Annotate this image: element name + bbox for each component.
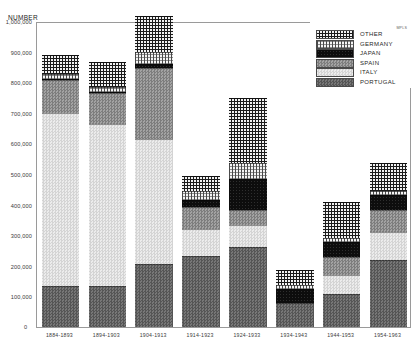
legend-label-germany: GERMANY — [360, 40, 393, 49]
bar-segment-1894-1903-italy — [89, 124, 127, 286]
legend-label-other: OTHER — [360, 30, 383, 39]
x-axis-label-1954-1963: 1954-1963 — [364, 332, 411, 338]
bar-segment-1954-1963-italy — [370, 232, 408, 260]
bar-segment-1944-1953-portugal — [323, 294, 361, 327]
bar-segment-1934-1943-germany — [276, 285, 314, 289]
bar-segment-1954-1963-japan — [370, 195, 408, 209]
bar-segment-1894-1903-portugal — [89, 286, 127, 327]
bar-segment-1894-1903-other — [89, 62, 127, 86]
legend-swatch-japan — [316, 49, 354, 58]
bar-segment-1914-1923-germany — [182, 191, 220, 199]
bar-segment-1884-1893-portugal — [42, 286, 80, 327]
legend-item-italy: ITALY — [316, 68, 410, 77]
legend-label-italy: ITALY — [360, 68, 378, 77]
y-axis-zero-label: 0 — [24, 324, 27, 330]
bar-1924-1933 — [229, 21, 267, 327]
bar-segment-1894-1903-spain — [89, 93, 127, 124]
bar-segment-1944-1953-spain — [323, 257, 361, 275]
x-axis-label-1944-1953: 1944-1953 — [317, 332, 364, 338]
bar-segment-1884-1893-japan — [42, 79, 80, 80]
bar-segment-1924-1933-other — [229, 98, 267, 163]
y-axis-tick-1000000: 1,000,000 — [0, 19, 32, 25]
bar-1884-1893 — [42, 21, 80, 327]
bar-segment-1954-1963-other — [370, 163, 408, 191]
legend-item-portugal: PORTUGAL — [316, 78, 410, 87]
legend-label-portugal: PORTUGAL — [360, 78, 396, 87]
bar-segment-1904-1913-other — [135, 16, 173, 53]
bar-segment-1904-1913-spain — [135, 68, 173, 139]
bar-segment-1914-1923-portugal — [182, 256, 220, 327]
bar-segment-1934-1943-portugal — [276, 303, 314, 327]
bar-segment-1904-1913-portugal — [135, 264, 173, 327]
bar-1894-1903 — [89, 21, 127, 327]
bar-1914-1923 — [182, 21, 220, 327]
legend-swatch-other — [316, 30, 354, 39]
bar-segment-1944-1953-other — [323, 202, 361, 238]
y-axis-tick-200000: 200,000 — [0, 264, 32, 270]
bar-segment-1954-1963-spain — [370, 210, 408, 232]
y-axis-tick-400000: 400,000 — [0, 203, 32, 209]
bar-segment-1904-1913-germany — [135, 52, 173, 64]
bar-segment-1904-1913-italy — [135, 139, 173, 264]
legend-swatch-spain — [316, 59, 354, 68]
bar-segment-1934-1943-other — [276, 270, 314, 285]
y-axis-tick-900000: 900,000 — [0, 50, 32, 56]
y-axis-tick-labels: 1,000,000900,000800,000700,000600,000500… — [0, 0, 34, 346]
bar-segment-1894-1903-germany — [89, 87, 127, 92]
y-axis-tick-100000: 100,000 — [0, 294, 32, 300]
bar-segment-1884-1893-germany — [42, 74, 80, 79]
legend: MPLS OTHERGERMANYJAPANSPAINITALYPORTUGAL — [310, 22, 411, 88]
bar-segment-1924-1933-japan — [229, 179, 267, 210]
bar-1934-1943 — [276, 21, 314, 327]
y-axis-tick-700000: 700,000 — [0, 111, 32, 117]
legend-item-spain: SPAIN — [316, 59, 410, 68]
x-axis-label-1884-1893: 1884-1893 — [36, 332, 83, 338]
legend-swatch-italy — [316, 68, 354, 77]
bar-segment-1924-1933-italy — [229, 225, 267, 247]
bar-segment-1904-1913-japan — [135, 64, 173, 67]
legend-item-japan: JAPAN — [316, 49, 410, 58]
bar-segment-1954-1963-germany — [370, 191, 408, 195]
bar-segment-1914-1923-other — [182, 176, 220, 191]
legend-label-japan: JAPAN — [360, 49, 381, 58]
x-axis-label-1914-1923: 1914-1923 — [177, 332, 224, 338]
y-axis-tick-600000: 600,000 — [0, 141, 32, 147]
bar-segment-1894-1903-japan — [89, 92, 127, 93]
bar-segment-1924-1933-germany — [229, 163, 267, 179]
bar-1904-1913 — [135, 21, 173, 327]
bar-segment-1944-1953-japan — [323, 242, 361, 256]
bar-segment-1924-1933-spain — [229, 210, 267, 225]
legend-swatch-portugal — [316, 78, 354, 87]
bar-segment-1914-1923-italy — [182, 229, 220, 256]
x-axis-label-1924-1933: 1924-1933 — [224, 332, 271, 338]
y-axis-tick-800000: 800,000 — [0, 80, 32, 86]
bar-segment-1884-1893-other — [42, 55, 80, 74]
bar-segment-1924-1933-portugal — [229, 247, 267, 327]
x-axis-label-1904-1913: 1904-1913 — [130, 332, 177, 338]
y-axis-tick-300000: 300,000 — [0, 233, 32, 239]
bar-segment-1934-1943-japan — [276, 289, 314, 303]
legend-item-germany: GERMANY — [316, 40, 410, 49]
bar-segment-1914-1923-japan — [182, 200, 220, 207]
legend-item-other: OTHER — [316, 30, 410, 39]
legend-swatch-germany — [316, 40, 354, 49]
x-axis-label-1934-1943: 1934-1943 — [270, 332, 317, 338]
bar-segment-1884-1893-spain — [42, 80, 80, 113]
bar-segment-1944-1953-italy — [323, 275, 361, 294]
x-axis-label-1894-1903: 1894-1903 — [83, 332, 130, 338]
bar-segment-1914-1923-spain — [182, 207, 220, 229]
y-axis-tick-500000: 500,000 — [0, 172, 32, 178]
legend-label-spain: SPAIN — [360, 59, 379, 68]
bar-segment-1954-1963-portugal — [370, 260, 408, 327]
bar-segment-1944-1953-germany — [323, 238, 361, 242]
bar-segment-1884-1893-italy — [42, 113, 80, 287]
chart-canvas: NUMBER 1,000,000900,000800,000700,000600… — [0, 0, 419, 346]
